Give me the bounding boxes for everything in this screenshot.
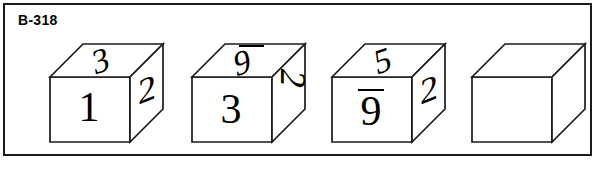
cube-3[interactable]: 5 9 2	[327, 33, 467, 145]
svg-text:2: 2	[420, 66, 438, 113]
cube-3-right-digit: 2	[420, 66, 438, 113]
cube-2[interactable]: 9 3 2	[187, 33, 327, 145]
cube-row: 3 1 2 9 3	[5, 5, 594, 158]
cube-1[interactable]: 3 1 2	[45, 33, 185, 145]
svg-text:9: 9	[361, 88, 382, 134]
cube-4-blank[interactable]	[467, 33, 598, 145]
svg-text:1: 1	[79, 84, 100, 130]
svg-text:2: 2	[138, 66, 156, 113]
svg-text:3: 3	[221, 86, 242, 132]
puzzle-frame: B-318 3 1 2	[3, 3, 592, 156]
cube-2-front-digit: 3	[221, 86, 242, 132]
cube-4-front-face	[472, 77, 552, 142]
cube-1-front-digit: 1	[79, 84, 100, 130]
cube-1-right-digit: 2	[138, 66, 156, 113]
cube-3-front-digit: 9	[358, 88, 384, 134]
